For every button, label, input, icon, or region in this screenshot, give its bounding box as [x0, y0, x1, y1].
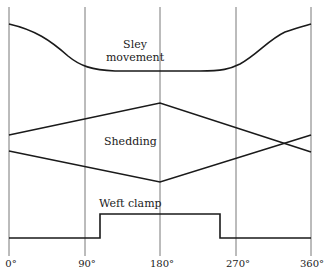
sley-label-line1: Sley [105, 38, 165, 51]
sley-movement-label: Sley movement [105, 38, 165, 64]
tick-90: 90° [78, 258, 96, 269]
tick-180: 180° [150, 258, 174, 269]
tick-0: 0° [5, 258, 16, 269]
tick-360: 360° [300, 258, 324, 269]
sley-label-line2: movement [105, 51, 165, 64]
tick-270: 270° [226, 258, 250, 269]
weft-clamp-label: Weft clamp [99, 197, 162, 210]
shedding-label: Shedding [104, 135, 157, 148]
